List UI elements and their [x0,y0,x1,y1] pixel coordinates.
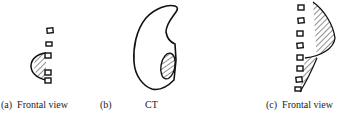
panel-c-drawing [295,2,335,92]
panel-b-drawing [134,6,178,90]
lesion-hatch [300,2,335,92]
caption-b-label: (b) [100,99,112,111]
caption-a-label: (a) [1,99,12,110]
caption-c-text: Frontal view [282,99,333,110]
caption-b-text: CT [145,99,158,111]
caption-a: (a) Frontal view [1,99,68,111]
panel-a-drawing [31,28,53,83]
caption-c-label: (c) [266,99,277,110]
caption-c: (c) Frontal view [266,99,333,111]
vertebrae [45,28,53,83]
caption-a-text: Frontal view [17,99,68,110]
